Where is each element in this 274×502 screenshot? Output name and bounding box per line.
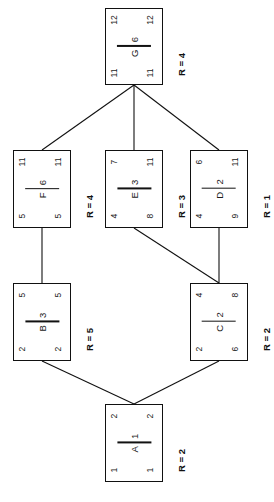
node-e[interactable]: 7 11 4 8 E 3 [105, 150, 163, 228]
node-b-duration: 3 [36, 313, 47, 321]
node-b-center: B 3 [14, 284, 70, 360]
node-g[interactable]: 12 12 11 11 G 6 [105, 8, 163, 85]
node-b[interactable]: 5 5 2 2 B 3 [13, 283, 71, 361]
node-b-divider [25, 321, 59, 322]
edge-b-a [42, 361, 134, 404]
node-d-resource: R = 1 [261, 195, 272, 218]
node-c-divider [202, 321, 236, 322]
node-b-activity: B [36, 322, 47, 331]
node-e-duration: 3 [128, 180, 139, 188]
edge-g-f [42, 85, 134, 150]
edge-g-d [134, 85, 219, 150]
node-e-resource: R = 3 [176, 195, 187, 218]
node-g-duration: 6 [129, 37, 140, 45]
node-d-activity: D [213, 189, 224, 199]
node-a-resource: R = 2 [176, 449, 187, 472]
edge-e-c [134, 228, 219, 283]
node-d-center: D 2 [191, 151, 247, 227]
node-f-center: F 6 [14, 151, 70, 227]
node-c-resource: R = 2 [261, 328, 272, 351]
node-g-activity: G [129, 46, 140, 56]
node-a-activity: A [128, 443, 139, 452]
node-a-divider [117, 442, 151, 443]
node-b-resource: R = 5 [84, 328, 95, 351]
node-d-divider [202, 188, 236, 189]
node-f-activity: F [36, 189, 47, 198]
node-d[interactable]: 6 11 4 9 D 2 [190, 150, 248, 228]
node-a[interactable]: 2 2 1 1 A 1 [105, 404, 163, 482]
node-e-center: E 3 [106, 151, 162, 227]
node-c-duration: 2 [213, 312, 224, 320]
node-f-duration: 6 [36, 180, 47, 188]
node-a-center: A 1 [106, 405, 162, 481]
node-a-duration: 1 [128, 434, 139, 442]
node-c-center: C 2 [191, 284, 247, 360]
network-diagram: 12 12 11 11 G 6 R = 4 11 11 5 5 F 6 R = … [0, 0, 274, 502]
node-g-center: G 6 [106, 9, 162, 84]
node-d-duration: 2 [213, 179, 224, 187]
node-c-activity: C [213, 322, 224, 332]
node-g-resource: R = 4 [176, 53, 187, 76]
node-f-divider [25, 188, 59, 189]
node-f[interactable]: 11 11 5 5 F 6 [13, 150, 71, 228]
edge-c-a [134, 361, 219, 404]
node-e-divider [117, 188, 151, 189]
node-f-resource: R = 4 [84, 195, 95, 218]
node-c[interactable]: 4 8 2 6 C 2 [190, 283, 248, 361]
node-e-activity: E [128, 189, 139, 198]
